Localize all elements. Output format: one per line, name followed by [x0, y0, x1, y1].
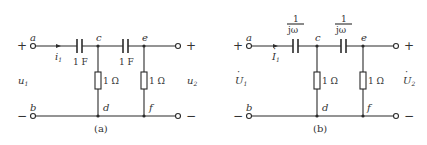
- circuit-a: + − + − a b c d e f i1 1 F 1 F 1 Ω 1 Ω u…: [17, 32, 197, 134]
- resistor-2-icon: [141, 72, 147, 89]
- node-e-dot: [142, 44, 145, 47]
- svg-text:jω: jω: [287, 25, 298, 35]
- node-label-a: a: [30, 32, 36, 43]
- resistor-1-icon: [95, 72, 101, 89]
- terminal-a-icon: [247, 44, 252, 49]
- node-label-a: a: [246, 32, 252, 43]
- input-minus-sign: −: [233, 109, 243, 123]
- capacitor-2-label: 1 F: [119, 57, 134, 67]
- circuit-b: + − + − a b c d e f I1 · 1 jω 1 jω 1 Ω 1…: [233, 14, 415, 134]
- caption-b: (b): [313, 123, 327, 134]
- terminal-b-icon: [31, 114, 36, 119]
- output-voltage-label: u2: [187, 75, 197, 87]
- node-label-d: d: [103, 102, 109, 113]
- capacitor-1-label: 1 jω: [287, 14, 304, 35]
- terminal-a-icon: [31, 44, 36, 49]
- node-label-f: f: [148, 102, 155, 113]
- node-d-dot: [315, 114, 318, 117]
- node-c-dot: [96, 44, 99, 47]
- node-label-b: b: [246, 102, 252, 113]
- node-label-e: e: [142, 32, 148, 43]
- terminal-out-minus-icon: [394, 114, 399, 119]
- node-label-c: c: [96, 32, 102, 43]
- output-plus-sign: +: [404, 39, 414, 53]
- svg-text:1: 1: [293, 14, 299, 24]
- node-label-b: b: [30, 102, 36, 113]
- terminal-out-plus-icon: [176, 44, 181, 49]
- node-c-dot: [315, 44, 318, 47]
- resistor-2-label: 1 Ω: [368, 76, 384, 86]
- svg-text:1: 1: [341, 14, 347, 24]
- capacitor-2-label: 1 jω: [335, 14, 352, 35]
- input-plus-sign: +: [17, 39, 27, 53]
- resistor-1-label: 1 Ω: [103, 76, 119, 86]
- capacitor-1-label: 1 F: [73, 57, 88, 67]
- caption-a: (a): [94, 123, 108, 134]
- resistor-2-icon: [360, 72, 366, 89]
- input-minus-sign: −: [17, 109, 27, 123]
- output-voltage-phasor-dot: ·: [405, 66, 408, 77]
- node-f-dot: [361, 114, 364, 117]
- output-minus-sign: −: [186, 109, 196, 123]
- node-label-c: c: [315, 32, 321, 43]
- capacitor-1-icon: [77, 39, 82, 53]
- current-phasor-dot: ·: [273, 43, 276, 54]
- terminal-b-icon: [247, 114, 252, 119]
- terminal-out-plus-icon: [394, 44, 399, 49]
- current-arrow-icon: [56, 44, 61, 48]
- node-d-dot: [96, 114, 99, 117]
- input-plus-sign: +: [233, 39, 243, 53]
- resistor-2-label: 1 Ω: [149, 76, 165, 86]
- resistor-1-icon: [314, 72, 320, 89]
- terminal-out-minus-icon: [176, 114, 181, 119]
- node-label-d: d: [322, 102, 328, 113]
- capacitor-2-icon: [341, 39, 346, 53]
- capacitor-1-icon: [293, 39, 298, 53]
- current-label: i1: [55, 51, 62, 63]
- output-plus-sign: +: [186, 39, 196, 53]
- node-label-f: f: [366, 102, 373, 113]
- svg-text:jω: jω: [335, 25, 346, 35]
- node-f-dot: [142, 114, 145, 117]
- input-voltage-label: u1: [18, 75, 28, 87]
- output-minus-sign: −: [404, 109, 414, 123]
- input-voltage-phasor-dot: ·: [237, 66, 240, 77]
- node-label-e: e: [361, 32, 367, 43]
- capacitor-2-icon: [123, 39, 128, 53]
- resistor-1-label: 1 Ω: [322, 76, 338, 86]
- circuit-diagrams: + − + − a b c d e f i1 1 F 1 F 1 Ω 1 Ω u…: [0, 0, 427, 145]
- node-e-dot: [361, 44, 364, 47]
